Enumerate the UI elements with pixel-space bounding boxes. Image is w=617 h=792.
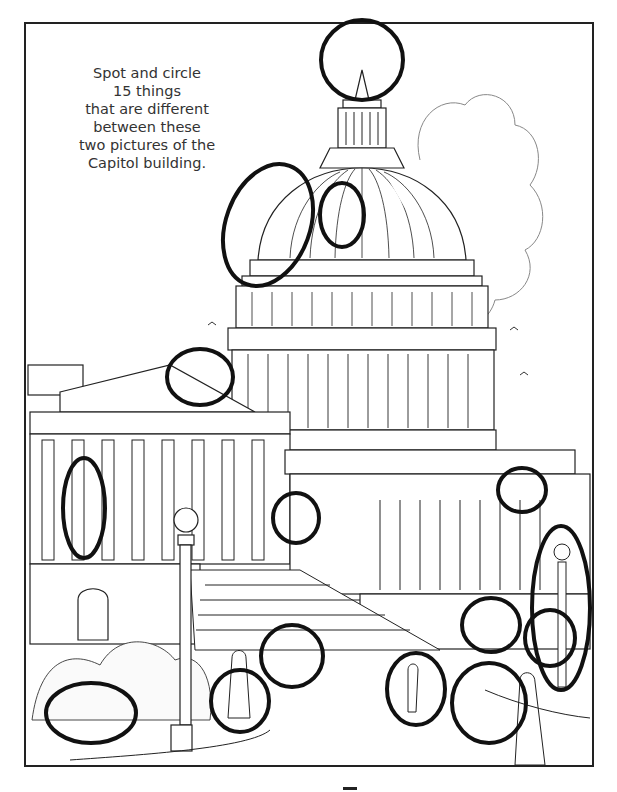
dome — [228, 70, 496, 450]
instruction-line: that are different — [62, 100, 232, 118]
instruction-line: 15 things — [62, 82, 232, 100]
puzzle-instructions: Spot and circle 15 things that are diffe… — [62, 64, 232, 172]
instruction-line: Capitol building. — [62, 154, 232, 172]
instruction-line: two pictures of the — [62, 136, 232, 154]
instruction-line: between these — [62, 118, 232, 136]
page-mark — [343, 787, 357, 790]
instruction-line: Spot and circle — [62, 64, 232, 82]
people — [228, 651, 545, 766]
circle-tourist-photo[interactable] — [452, 663, 526, 743]
